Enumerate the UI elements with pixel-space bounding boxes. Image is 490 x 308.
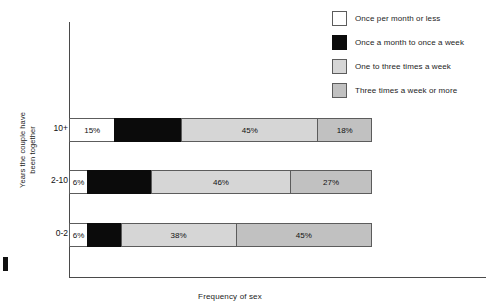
y-tick-text: 2-10 bbox=[22, 175, 68, 185]
legend-swatch-icon bbox=[332, 83, 347, 98]
x-axis-line bbox=[69, 277, 486, 278]
bar-segment-label: 6% bbox=[73, 178, 85, 187]
y-tick-text: 0-2 bbox=[22, 228, 68, 238]
legend-swatch-icon bbox=[332, 35, 347, 50]
bar-segment[interactable] bbox=[87, 170, 151, 194]
bar-segment[interactable]: 27% bbox=[290, 170, 372, 194]
bar-segment[interactable]: 15% bbox=[69, 118, 114, 142]
bar-segment-label: 6% bbox=[73, 231, 85, 240]
bar-segment[interactable]: 18% bbox=[317, 118, 372, 142]
legend-swatch-icon bbox=[332, 59, 347, 74]
bar-segment[interactable]: 38% bbox=[121, 223, 236, 247]
bar-segment-label: 46% bbox=[213, 178, 229, 187]
legend-item-once-a-month-to-once-a-week[interactable]: Once a month to once a week bbox=[332, 31, 490, 53]
bar-segment[interactable]: 6% bbox=[69, 170, 87, 194]
bar-row: 6%46%27% bbox=[69, 170, 372, 194]
bar-segment[interactable]: 45% bbox=[236, 223, 372, 247]
bar-segment-label: 38% bbox=[171, 231, 187, 240]
bar-row: 6%38%45% bbox=[69, 223, 372, 247]
legend-swatch-icon bbox=[332, 11, 347, 26]
bar-segment-label: 45% bbox=[242, 126, 258, 135]
y-tick-text: 10+ bbox=[22, 123, 68, 133]
bar-segment-label: 18% bbox=[337, 126, 353, 135]
bar-segment-label: 27% bbox=[323, 178, 339, 187]
bar-row: 15%45%18% bbox=[69, 118, 372, 142]
legend-item-once-per-month-or-less[interactable]: Once per month or less bbox=[332, 7, 490, 29]
legend-item-label: Once per month or less bbox=[355, 14, 440, 23]
legend-item-label: Three times a week or more bbox=[355, 86, 457, 95]
legend-item-one-to-three-times-a-week[interactable]: One to three times a week bbox=[332, 55, 490, 77]
legend-item-label: One to three times a week bbox=[355, 62, 451, 71]
bar-segment-label: 45% bbox=[296, 231, 312, 240]
legend-item-three-times-a-week-or-more[interactable]: Three times a week or more bbox=[332, 79, 490, 101]
legend-item-label: Once a month to once a week bbox=[355, 38, 464, 47]
legend: Once per month or less Once a month to o… bbox=[332, 7, 490, 103]
bar-segment[interactable]: 45% bbox=[181, 118, 317, 142]
bar-segment[interactable] bbox=[114, 118, 181, 142]
bar-segment-label: 15% bbox=[84, 126, 100, 135]
page-edge-mark bbox=[3, 257, 8, 271]
y-axis-title: Years the couple have been together bbox=[18, 75, 38, 225]
bar-segment[interactable]: 46% bbox=[151, 170, 290, 194]
bar-segment[interactable] bbox=[87, 223, 120, 247]
bar-segment[interactable]: 6% bbox=[69, 223, 87, 247]
x-axis-title: Frequency of sex bbox=[0, 292, 460, 301]
